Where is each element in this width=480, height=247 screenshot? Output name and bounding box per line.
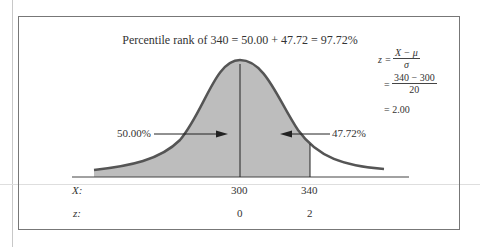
formula-fraction-2: 340 − 300 20	[392, 72, 437, 95]
formula-den-2: 20	[409, 84, 419, 95]
formula-z-lhs: z =	[378, 54, 391, 65]
z-tick-0: 0	[237, 207, 243, 219]
x-tick-340: 340	[301, 184, 318, 196]
right-area-label: 47.72%	[332, 127, 366, 139]
formula-eq-2: =	[384, 79, 390, 90]
z-tick-2: 2	[307, 207, 313, 219]
z-axis-label: z:	[73, 207, 81, 219]
formula-num-1: X − μ	[393, 47, 420, 59]
formula-result: = 2.00	[384, 104, 410, 115]
left-area-label: 50.00%	[117, 127, 151, 139]
x-axis-label: X:	[72, 184, 82, 196]
x-tick-300: 300	[231, 184, 248, 196]
formula-fraction-1: X − μ σ	[393, 47, 420, 70]
shaded-area	[94, 60, 310, 177]
chart-title: Percentile rank of 340 = 50.00 + 47.72 =…	[0, 33, 480, 48]
formula-den-1: σ	[404, 59, 409, 70]
formula-num-2: 340 − 300	[392, 72, 437, 84]
